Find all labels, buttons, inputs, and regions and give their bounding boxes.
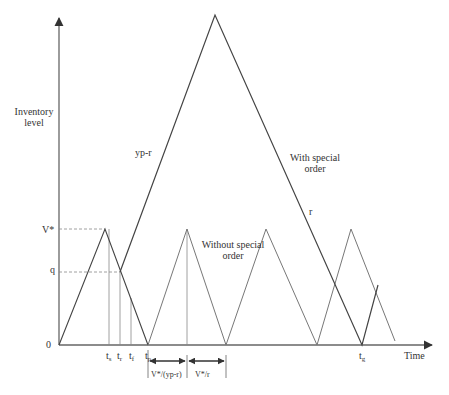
initial-cycle [59, 229, 148, 345]
y-axis-label-line2: level [12, 117, 56, 128]
interval-label-2: V*/r [195, 369, 210, 380]
origin-label: 0 [46, 339, 51, 350]
tp-label: tp [145, 350, 151, 365]
tf-label: tf [129, 350, 134, 365]
interval-label-1: V*/(yp-r) [151, 369, 182, 380]
tr-label: tr [117, 350, 122, 365]
slope-down-label: r [309, 206, 312, 217]
inventory-diagram [0, 0, 449, 395]
without-special-order-line [148, 229, 395, 345]
without-special-order-label: Without special order [196, 239, 270, 261]
slope-up-label: yp-r [135, 147, 152, 158]
x-axis-label: Time [404, 350, 425, 361]
with-special-order-line [120, 15, 378, 345]
y-axis-label-line1: Inventory [12, 106, 56, 117]
with-special-order-label: With special order [280, 152, 350, 174]
v-star-label: V* [42, 224, 54, 235]
tg-label: tg [359, 350, 365, 365]
q-label: q [50, 264, 55, 275]
y-axis-label: Inventory level [12, 106, 56, 128]
ts-label: ts [106, 350, 112, 365]
